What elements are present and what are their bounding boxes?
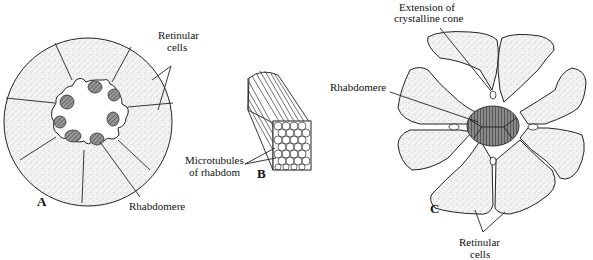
panel-c: Extension of crystalline cone Rhabdomere… bbox=[330, 1, 586, 260]
label-retinular-c-1: Retinular bbox=[459, 236, 500, 248]
label-rhabdomere-c: Rhabdomere bbox=[330, 81, 386, 93]
ommatidium-diagram: Retinular cells Rhabdomere A bbox=[0, 0, 593, 260]
leader-retinular-c2 bbox=[483, 212, 505, 232]
label-rhabdomere-a: Rhabdomere bbox=[129, 200, 185, 212]
panel-label-a: A bbox=[37, 194, 47, 209]
panel-label-b: B bbox=[257, 166, 266, 181]
label-extension-2: crystalline cone bbox=[394, 12, 463, 24]
label-microtubules-2: of rhabdom bbox=[189, 166, 240, 178]
label-retinular-c-2: cells bbox=[470, 248, 490, 260]
leader-microtubules-2 bbox=[245, 158, 276, 164]
panel-a: Retinular cells Rhabdomere A bbox=[4, 29, 199, 212]
panel-label-c: C bbox=[430, 201, 439, 216]
label-retinular-a-2: cells bbox=[167, 41, 187, 53]
label-retinular-a-1: Retinular bbox=[158, 29, 199, 41]
panel-b: Microtubules of rhabdom B bbox=[185, 71, 311, 181]
label-microtubules-1: Microtubules bbox=[185, 154, 244, 166]
leader-microtubules-1 bbox=[245, 148, 275, 164]
fused-rhabdom bbox=[467, 106, 519, 146]
